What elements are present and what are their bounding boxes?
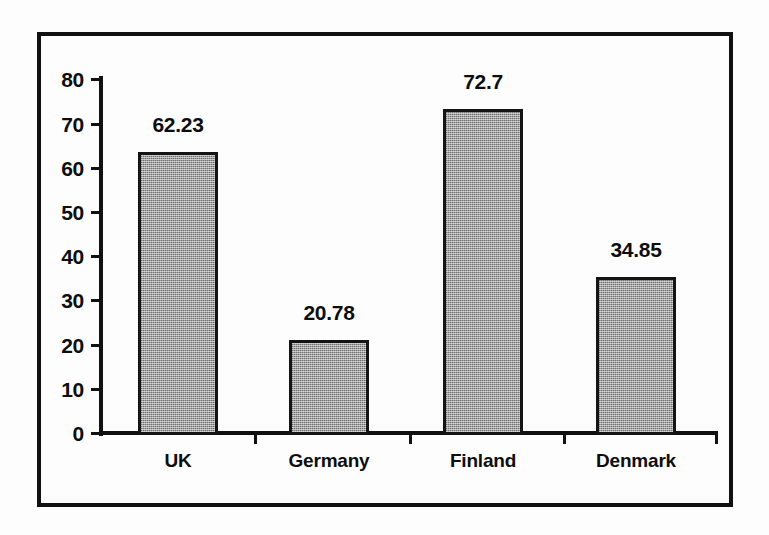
bar-value-label-finland: 72.7 (423, 71, 543, 92)
x-axis-tick-boundary-3 (563, 434, 566, 444)
y-axis-tick-0 (91, 432, 100, 435)
y-axis-tick-label-70: 70 (38, 114, 84, 135)
y-axis-tick-label-30: 30 (38, 290, 84, 311)
bar-chart-figure: 0 10 20 30 40 50 60 70 80 62.23 20.78 72… (0, 0, 769, 535)
y-axis-tick-30 (91, 299, 100, 302)
y-axis-tick-label-50: 50 (38, 202, 84, 223)
bar-value-label-germany: 20.78 (269, 302, 389, 323)
bar-finland[interactable] (443, 109, 523, 435)
y-axis-tick-70 (91, 123, 100, 126)
bar-germany[interactable] (289, 340, 369, 435)
bar-value-label-uk: 62.23 (118, 114, 238, 135)
y-axis-tick-60 (91, 167, 100, 170)
y-axis-tick-40 (91, 255, 100, 258)
y-axis-tick-label-40: 40 (38, 246, 84, 267)
y-axis-tick-10 (91, 388, 100, 391)
x-axis-category-label-uk: UK (118, 451, 238, 470)
x-axis-tick-boundary-4 (715, 434, 718, 444)
y-axis-tick-label-80: 80 (38, 69, 84, 90)
y-axis-tick-50 (91, 211, 100, 214)
y-axis-tick-80 (91, 78, 100, 81)
y-axis-tick-label-20: 20 (38, 335, 84, 356)
bar-value-label-denmark: 34.85 (576, 239, 696, 260)
y-axis-tick-label-60: 60 (38, 158, 84, 179)
y-axis-tick-label-0: 0 (38, 423, 84, 444)
x-axis-category-label-germany: Germany (269, 451, 389, 470)
x-axis-category-label-denmark: Denmark (576, 451, 696, 470)
y-axis-tick-label-10: 10 (38, 379, 84, 400)
y-axis-tick-20 (91, 344, 100, 347)
bar-uk[interactable] (138, 152, 218, 435)
bar-denmark[interactable] (596, 277, 676, 435)
x-axis-tick-boundary-2 (409, 434, 412, 444)
x-axis-category-label-finland: Finland (423, 451, 543, 470)
x-axis-tick-boundary-1 (254, 434, 257, 444)
